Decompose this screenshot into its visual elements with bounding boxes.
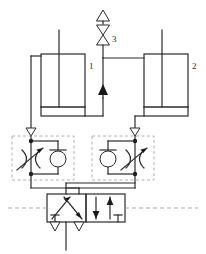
cylinder-right-label: 2 (192, 61, 197, 71)
diagram-canvas: .ln{stroke:#2b2b2b;stroke-width:1.2;fill… (0, 0, 206, 254)
cylinder-right-group[interactable] (135, 30, 188, 128)
triangle-down-icon-right-inlet (130, 128, 140, 136)
triangle-up-icon-lower (97, 35, 110, 45)
flow-control-valve-left-group[interactable] (12, 128, 74, 188)
exhaust-port-icon-right (74, 222, 84, 231)
cylinder-left-label: 1 (89, 61, 94, 71)
pneumatic-schematic: .ln{stroke:#2b2b2b;stroke-width:1.2;fill… (0, 0, 206, 254)
check-valve-icon-left (50, 151, 66, 167)
triangle-down-icon-left-inlet (26, 128, 36, 136)
shuttle-exhaust-valve-group[interactable] (97, 10, 110, 58)
top-valve-label: 3 (112, 34, 117, 44)
valve-parallel-arrowhead-up (107, 197, 114, 205)
check-valve-icon-right (100, 151, 116, 167)
valve-parallel-arrowhead-down (93, 211, 100, 219)
cylinder-left-group[interactable] (31, 30, 103, 128)
solid-arrow-up-icon (98, 84, 108, 95)
directional-control-valve-group[interactable] (8, 194, 198, 250)
exhaust-port-icon-left (50, 222, 60, 231)
triangle-up-icon (97, 10, 110, 21)
triangle-down-icon (97, 25, 110, 35)
valve-position-box-right (86, 194, 125, 222)
flow-control-valve-right-group[interactable] (92, 128, 154, 188)
